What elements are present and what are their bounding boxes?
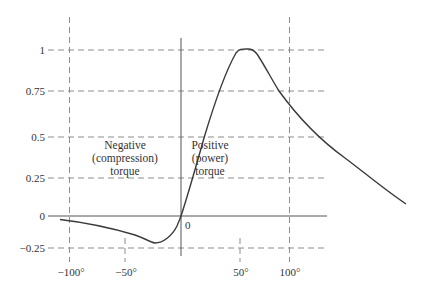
x-label-100: 100° <box>280 266 301 278</box>
positive-torque-annotation: Positive (power) torque <box>191 139 228 178</box>
negative-torque-annotation: Negative (compression) torque <box>92 139 158 178</box>
positive-line-1: Positive <box>191 139 228 151</box>
x-label-neg50: −50° <box>115 266 137 278</box>
negative-line-3: torque <box>110 165 139 178</box>
torque-chart: 1 0.75 0.5 0.25 0 −0.25 −100° −50° 50° 1… <box>0 0 430 295</box>
x-label-50: 50° <box>233 266 248 278</box>
y-label-neg0.25: −0.25 <box>20 242 46 254</box>
positive-line-2: (power) <box>192 152 229 165</box>
y-label-0.5: 0.5 <box>31 131 45 143</box>
y-label-1: 1 <box>40 44 46 56</box>
y-label-0.25: 0.25 <box>26 172 46 184</box>
x-tick-labels: −100° −50° 50° 100° <box>57 266 300 278</box>
negative-line-2: (compression) <box>92 152 158 165</box>
negative-line-1: Negative <box>104 139 146 152</box>
y-label-0: 0 <box>40 210 46 222</box>
y-tick-labels: 1 0.75 0.5 0.25 0 −0.25 <box>20 44 46 254</box>
origin-label: 0 <box>185 219 191 231</box>
y-label-0.75: 0.75 <box>26 85 46 97</box>
x-label-neg100: −100° <box>57 266 84 278</box>
positive-line-3: torque <box>195 165 224 178</box>
